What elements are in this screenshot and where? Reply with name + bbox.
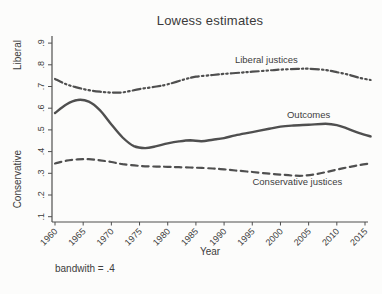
series-line-conservative-justices [55,159,371,176]
x-tick-label-2000: 2000 [264,226,285,247]
series-line-outcomes [55,100,371,148]
x-tick-label-2005: 2005 [292,226,313,247]
y-tick-label-.1: .1 [36,213,46,221]
x-tick-label-2015: 2015 [348,226,369,247]
x-axis-title: Year [52,246,368,257]
x-tick-label-2010: 2010 [320,226,341,247]
series-label-liberal-justices: Liberal justices [235,54,298,65]
x-tick-label-1985: 1985 [179,226,200,247]
y-tick-label-.2: .2 [36,191,46,199]
y-tick-label-.9: .9 [36,39,46,47]
y-tick-label-.5: .5 [36,126,46,134]
y-tick-label-.4: .4 [36,148,46,156]
x-tick-label-1980: 1980 [151,226,172,247]
bandwidth-note: bandwith = .4 [55,263,115,274]
y-tick-label-.7: .7 [36,83,46,91]
y-tick-label-.3: .3 [36,170,46,178]
x-tick-label-1990: 1990 [207,226,228,247]
series-line-liberal-justices [55,69,371,93]
y-tick-label-.6: .6 [36,104,46,112]
lowess-chart-figure: Lowess estimates Liberal Conservative .1… [0,0,382,294]
x-tick-label-1960: 1960 [38,226,59,247]
series-label-outcomes: Outcomes [287,109,331,120]
series-label-conservative-justices: Conservative justices [252,176,342,187]
y-tick-label-.8: .8 [36,61,46,69]
x-tick-label-1975: 1975 [123,226,144,247]
x-tick-label-1965: 1965 [66,226,87,247]
x-tick-label-1995: 1995 [235,226,256,247]
x-tick-label-1970: 1970 [95,226,116,247]
